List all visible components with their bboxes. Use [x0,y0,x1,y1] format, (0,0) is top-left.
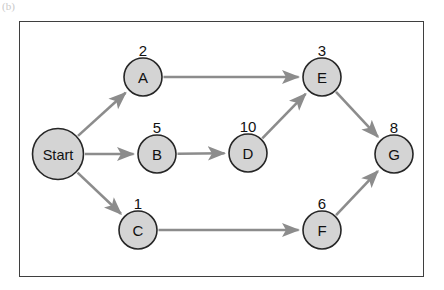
node-b[interactable]: B5 [138,119,176,174]
node-weight-c: 1 [134,195,142,212]
edge-start-to-a [78,93,126,136]
node-label-g: G [388,146,400,163]
node-c[interactable]: C1 [119,195,157,250]
task-graph: StartA2B5C1D10E3F6G8 [0,0,444,290]
node-f[interactable]: F6 [303,195,341,250]
node-label-start: Start [43,147,74,163]
node-label-a: A [138,69,148,86]
node-label-e: E [317,69,327,86]
node-label-f: F [317,222,326,239]
node-label-b: B [152,146,162,163]
node-label-d: D [243,145,254,162]
node-e[interactable]: E3 [303,42,341,97]
edge-e-to-g [336,92,378,137]
edge-b-to-d [178,153,225,154]
node-a[interactable]: A2 [124,42,162,97]
node-weight-f: 6 [318,195,326,212]
edge-layer [78,77,378,230]
node-label-c: C [133,222,144,239]
edge-f-to-g [336,171,378,215]
figure-canvas: (b) StartA2B5C1D10E3F6G8 [0,0,444,290]
node-weight-a: 2 [139,42,147,59]
node-start[interactable]: Start [33,129,84,180]
node-weight-b: 5 [153,119,161,136]
node-weight-d: 10 [240,118,257,135]
node-weight-g: 8 [390,119,398,136]
node-g[interactable]: G8 [375,119,413,174]
node-weight-e: 3 [318,42,326,59]
edge-d-to-e [262,94,305,138]
edge-start-to-c [78,173,121,214]
node-d[interactable]: D10 [229,118,267,173]
node-layer: StartA2B5C1D10E3F6G8 [33,42,414,250]
